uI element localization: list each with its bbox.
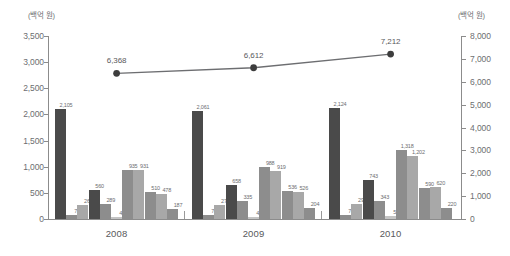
right-axis-tick bbox=[462, 59, 466, 60]
right-axis-tick-label: 7,000 bbox=[470, 54, 491, 64]
left-axis-tick bbox=[44, 62, 48, 63]
x-axis-category-label: 2008 bbox=[77, 228, 157, 239]
left-axis-tick bbox=[44, 88, 48, 89]
right-axis-tick-label: 1,000 bbox=[470, 191, 491, 201]
left-axis-tick bbox=[44, 36, 48, 37]
left-axis-tick-label: 1,500 bbox=[4, 136, 44, 146]
right-axis-tick-label: 5,000 bbox=[470, 100, 491, 110]
right-axis-tick bbox=[462, 219, 466, 220]
line-marker bbox=[387, 51, 394, 58]
right-axis-tick bbox=[462, 36, 466, 37]
right-axis-tick bbox=[462, 82, 466, 83]
right-axis-tick bbox=[462, 150, 466, 151]
line-value-label: 6,612 bbox=[234, 51, 274, 60]
right-axis-tick-label: 2,000 bbox=[470, 168, 491, 178]
line-value-label: 6,368 bbox=[97, 56, 137, 65]
right-axis-tick-label: 0 bbox=[470, 214, 475, 224]
line-marker bbox=[250, 64, 257, 71]
left-axis-tick-label: 0 bbox=[4, 214, 44, 224]
left-axis-tick-label: 2,500 bbox=[4, 83, 44, 93]
left-axis-tick bbox=[44, 193, 48, 194]
x-axis-baseline bbox=[48, 219, 462, 220]
left-axis-tick bbox=[44, 114, 48, 115]
left-axis-tick bbox=[44, 219, 48, 220]
right-axis-unit-label: (백억 원) bbox=[458, 9, 485, 20]
line-marker bbox=[113, 70, 120, 77]
right-axis-tick-label: 3,000 bbox=[470, 145, 491, 155]
left-axis-tick-label: 1,000 bbox=[4, 162, 44, 172]
right-axis-tick bbox=[462, 173, 466, 174]
x-axis-category-label: 2010 bbox=[351, 228, 431, 239]
right-axis-tick-label: 8,000 bbox=[470, 31, 491, 41]
left-axis-tick-label: 500 bbox=[4, 188, 44, 198]
left-axis-tick-label: 2,000 bbox=[4, 109, 44, 119]
right-axis-tick bbox=[462, 196, 466, 197]
line-value-label: 7,212 bbox=[371, 37, 411, 46]
left-axis-tick bbox=[44, 167, 48, 168]
x-axis-category-label: 2009 bbox=[214, 228, 294, 239]
left-axis-tick-label: 3,000 bbox=[4, 57, 44, 67]
left-axis-unit-label: (백억 원) bbox=[28, 9, 55, 20]
right-axis-tick-label: 6,000 bbox=[470, 77, 491, 87]
right-axis-tick bbox=[462, 105, 466, 106]
left-axis-tick bbox=[44, 141, 48, 142]
right-axis-tick-label: 4,000 bbox=[470, 123, 491, 133]
left-axis-tick-label: 3,500 bbox=[4, 31, 44, 41]
combo-chart: (백억 원) (백억 원) 3,5003,0002,5002,0001,5001… bbox=[0, 0, 510, 256]
right-axis-tick bbox=[462, 128, 466, 129]
